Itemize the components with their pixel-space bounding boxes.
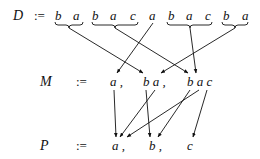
symbol: a <box>186 8 193 23</box>
assign-operator-p: := <box>76 138 87 153</box>
symbol: a <box>242 8 249 23</box>
m-item-bac: b a c <box>187 74 213 89</box>
edges-m-to-p <box>114 90 207 137</box>
p-item-a: a , <box>112 138 125 153</box>
assign-operator-m: := <box>76 74 87 89</box>
symbol: b <box>168 8 175 23</box>
symbol: a <box>110 8 117 23</box>
edge-arrow <box>193 90 207 137</box>
edge-arrow <box>114 90 116 137</box>
symbol: a <box>73 8 80 23</box>
row-label-m: M <box>39 74 53 89</box>
m-item-a: a , <box>110 74 123 89</box>
sequence-d: b a b a c a b a c b a <box>55 8 249 23</box>
edge-arrow <box>69 28 143 73</box>
row-label-d: D <box>12 8 23 23</box>
p-item-b: b , <box>149 138 162 153</box>
symbol: b <box>92 8 99 23</box>
edge-arrow <box>115 28 188 73</box>
p-item-c: c <box>187 138 193 153</box>
derivation-diagram: D := b a b a c a b a c b a M := a , b a … <box>0 0 260 159</box>
symbol: b <box>223 8 230 23</box>
symbol: c <box>130 8 136 23</box>
symbol: a <box>149 8 156 23</box>
m-item-ba: b a , <box>143 74 166 89</box>
row-label-p: P <box>39 138 49 153</box>
edges-d-to-m <box>69 23 235 73</box>
assign-operator-d: := <box>34 8 45 23</box>
edge-arrow <box>161 28 235 73</box>
symbol: c <box>205 8 211 23</box>
symbol: b <box>55 8 62 23</box>
edge-arrow <box>190 28 196 73</box>
